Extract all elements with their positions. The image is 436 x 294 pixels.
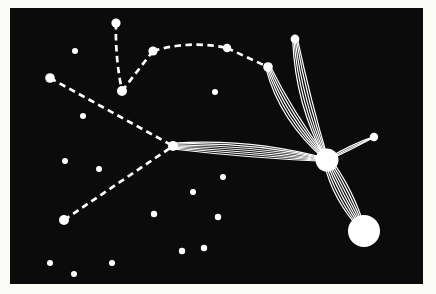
star-southwest: [59, 215, 69, 225]
field-star: [179, 248, 185, 254]
photo-frame: [0, 0, 436, 294]
nucleus-outer: [348, 215, 380, 247]
nucleus-inner: [316, 149, 339, 172]
field-star: [80, 113, 86, 119]
field-star: [190, 189, 196, 195]
field-star: [220, 174, 226, 180]
star-spur: [370, 133, 378, 141]
field-star: [109, 260, 115, 266]
field-star: [71, 271, 77, 277]
star-arc-1: [148, 46, 157, 55]
field-star: [201, 245, 207, 251]
star-fork: [117, 86, 127, 96]
field-star: [47, 260, 53, 266]
star-hub: [168, 141, 178, 151]
field-star: [215, 214, 221, 220]
field-star: [96, 166, 102, 172]
star-top: [111, 18, 120, 27]
field-star: [62, 158, 68, 164]
field-star: [72, 48, 78, 54]
star-west: [45, 73, 55, 83]
field-star: [151, 211, 157, 217]
star-arc-3: [263, 62, 273, 72]
star-ray-top: [291, 35, 300, 44]
constellation-svg: [0, 0, 436, 294]
field-star: [212, 89, 218, 95]
star-arc-2: [223, 44, 231, 52]
